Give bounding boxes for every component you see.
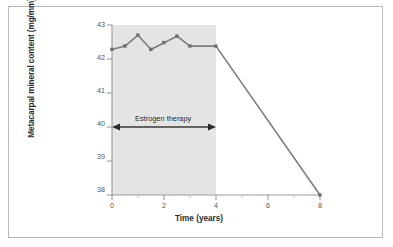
chart-figure: Metacarpal mineral content (mg/mm) Time … xyxy=(9,7,384,239)
plot-canvas xyxy=(9,7,384,239)
shaded-region-estrogen-therapy xyxy=(112,25,216,195)
figure-frame: Metacarpal mineral content (mg/mm) Time … xyxy=(8,6,383,238)
estrogen-therapy-label: Estrogen therapy xyxy=(135,114,191,123)
x-axis-ticks xyxy=(112,195,320,200)
